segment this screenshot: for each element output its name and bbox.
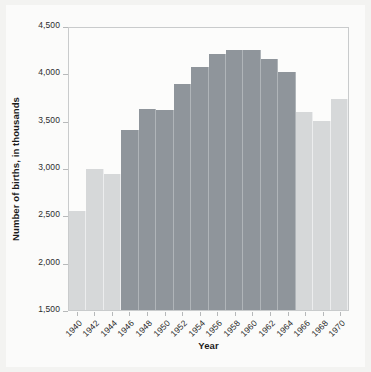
bar-fill: [104, 174, 121, 310]
bar-fill: [331, 99, 348, 310]
x-tick-label: 1948: [133, 318, 154, 339]
x-tick-mark: [340, 312, 341, 316]
y-tick-label: 4,500: [38, 20, 60, 30]
bar-fill: [226, 50, 243, 310]
x-tick-label: 1960: [239, 318, 260, 339]
y-tick-label: 3,000: [38, 162, 60, 172]
y-tick-label: 4,000: [38, 67, 60, 77]
x-tick-mark: [235, 312, 236, 316]
x-tick-mark: [217, 312, 218, 316]
x-tick-mark: [94, 312, 95, 316]
bar-fill: [69, 211, 86, 310]
x-tick-label: 1950: [151, 318, 172, 339]
x-tick-mark: [252, 312, 253, 316]
bar-fill: [313, 121, 330, 310]
bar-fill: [139, 109, 156, 310]
y-tick-label: 3,500: [38, 115, 60, 125]
bar-series: [69, 28, 348, 310]
y-tick-label: 2,500: [38, 209, 60, 219]
x-tick-mark: [182, 312, 183, 316]
bar-fill: [278, 72, 295, 310]
chart-figure: Number of births, in thousands 1,5002,00…: [0, 0, 371, 372]
bar-fill: [209, 54, 226, 310]
x-tick-label: 1966: [291, 318, 312, 339]
plot-area: [68, 27, 349, 311]
x-tick-mark: [147, 312, 148, 316]
x-tick-mark: [323, 312, 324, 316]
x-tick-label: 1944: [98, 318, 119, 339]
y-tick-label: 2,000: [38, 257, 60, 267]
x-tick-label: 1956: [204, 318, 225, 339]
x-tick-mark: [305, 312, 306, 316]
bar-fill: [174, 84, 191, 310]
x-tick-label: 1958: [221, 318, 242, 339]
y-tick-label: 1,500: [38, 304, 60, 314]
x-tick-label: 1964: [274, 318, 295, 339]
bar-fill: [243, 50, 260, 310]
x-tick-label: 1970: [327, 318, 348, 339]
bar-fill: [86, 169, 103, 310]
bar-fill: [296, 112, 313, 310]
bar-fill: [156, 110, 173, 310]
bar-fill: [261, 59, 278, 310]
y-axis: 1,5002,0002,5003,0003,5004,0004,500: [0, 27, 68, 311]
x-tick-mark: [129, 312, 130, 316]
x-tick-label: 1962: [256, 318, 277, 339]
x-tick-label: 1952: [169, 318, 190, 339]
x-tick-mark: [77, 312, 78, 316]
x-tick-mark: [200, 312, 201, 316]
x-tick-mark: [270, 312, 271, 316]
x-tick-label: 1954: [186, 318, 207, 339]
x-tick-mark: [165, 312, 166, 316]
bar-fill: [121, 130, 138, 310]
x-tick-mark: [112, 312, 113, 316]
bar-fill: [191, 67, 208, 310]
x-axis-title: Year: [68, 340, 349, 351]
x-tick-label: 1968: [309, 318, 330, 339]
x-tick-label: 1942: [81, 318, 102, 339]
x-tick-label: 1946: [116, 318, 137, 339]
x-tick-mark: [288, 312, 289, 316]
